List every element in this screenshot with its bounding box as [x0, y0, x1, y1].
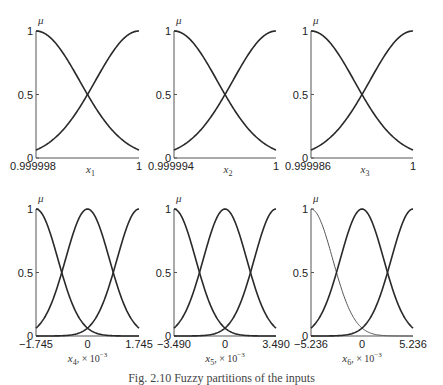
- subplot-4: 00.51μ−1.74501.745x4, × 10−3: [18, 192, 153, 367]
- x-axis-label: x6, × 10−3: [341, 351, 382, 367]
- x-tick-min: −3.490: [157, 338, 191, 350]
- membership-curve-1: [311, 31, 413, 150]
- membership-curve-3: [174, 209, 276, 336]
- x-tick-max: 5.236: [399, 338, 427, 350]
- x-tick-mid: 0: [84, 338, 90, 350]
- x-axis-label: x5, × 10−3: [204, 351, 245, 367]
- membership-curve-2: [36, 209, 139, 328]
- y-tick-label: 0.5: [293, 267, 308, 279]
- figure-caption: Fig. 2.10 Fuzzy partitions of the inputs: [0, 371, 443, 385]
- x-axis-label: x1: [85, 163, 95, 178]
- x-tick-mid: 0: [359, 338, 365, 350]
- x-axis-label: x4, × 10−3: [67, 351, 108, 367]
- subplot-2: 00.51μ0.9999941x2: [148, 14, 279, 178]
- x-tick-max: 1: [410, 160, 416, 172]
- x-tick-max: 1: [273, 160, 279, 172]
- y-axis-label: μ: [37, 192, 44, 204]
- membership-curve-1: [311, 209, 413, 336]
- y-tick-label: 1: [302, 203, 308, 215]
- y-tick-label: 1: [27, 203, 33, 215]
- x-tick-min: −1.745: [19, 338, 53, 350]
- y-tick-label: 0.5: [156, 89, 171, 101]
- y-tick-label: 1: [165, 25, 171, 37]
- x-axis-label: x2: [223, 163, 233, 178]
- membership-curve-1: [174, 209, 276, 336]
- membership-curve-2: [311, 209, 413, 328]
- y-axis-label: μ: [175, 192, 182, 204]
- x-tick-max: 3.490: [262, 338, 290, 350]
- y-axis-label: μ: [37, 14, 44, 26]
- membership-curve-1: [174, 31, 276, 150]
- subplot-6: 00.51μ−5.23605.236x6, × 10−3: [293, 192, 427, 367]
- x-tick-max: 1: [136, 160, 142, 172]
- membership-curve-2: [174, 31, 276, 150]
- membership-curve-2: [174, 209, 276, 328]
- x-tick-min: −5.236: [294, 338, 328, 350]
- subplot-3: 00.51μ0.9999861x3: [285, 14, 416, 178]
- y-tick-label: 0.5: [293, 89, 308, 101]
- x-tick-min: 0.999994: [148, 160, 194, 172]
- membership-curve-3: [311, 209, 413, 336]
- membership-curve-2: [311, 31, 413, 150]
- x-tick-min: 0.999998: [10, 160, 56, 172]
- subplot-5: 00.51μ−3.49003.490x5, × 10−3: [156, 192, 290, 367]
- y-tick-label: 1: [165, 203, 171, 215]
- y-axis-label: μ: [312, 192, 319, 204]
- y-tick-label: 0.5: [156, 267, 171, 279]
- figure: 00.51μ0.9999981x100.51μ0.9999941x200.51μ…: [0, 0, 443, 385]
- y-axis-label: μ: [312, 14, 319, 26]
- x-tick-min: 0.999986: [285, 160, 331, 172]
- y-tick-label: 1: [27, 25, 33, 37]
- y-tick-label: 1: [302, 25, 308, 37]
- y-tick-label: 0.5: [18, 267, 33, 279]
- membership-curve-3: [36, 209, 139, 336]
- membership-curve-1: [36, 209, 139, 336]
- membership-curve-1: [36, 31, 139, 150]
- x-tick-max: 1.745: [125, 338, 153, 350]
- y-tick-label: 0.5: [18, 89, 33, 101]
- x-tick-mid: 0: [222, 338, 228, 350]
- x-axis-label: x3: [360, 163, 370, 178]
- y-axis-label: μ: [175, 14, 182, 26]
- subplot-1: 00.51μ0.9999981x1: [10, 14, 142, 178]
- membership-curve-2: [36, 31, 139, 150]
